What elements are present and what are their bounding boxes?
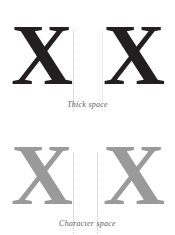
glyph-pair-thick-space: X X bbox=[0, 18, 175, 93]
glyph-x-right: X bbox=[103, 18, 165, 93]
glyph-x-right: X bbox=[103, 138, 165, 213]
caption-thick-space: Thick space bbox=[0, 100, 175, 109]
glyph-x-left: X bbox=[11, 18, 73, 93]
panel-thick-space: X X Thick space bbox=[0, 0, 175, 118]
glyph-x-left: X bbox=[11, 138, 73, 213]
typography-spacing-figure: { "figure": { "background_color": "#ffff… bbox=[0, 0, 175, 235]
glyph-pair-character-space: X X bbox=[0, 138, 175, 213]
caption-character-space: Character space bbox=[0, 219, 175, 228]
panel-character-space: X X Character space bbox=[0, 118, 175, 235]
